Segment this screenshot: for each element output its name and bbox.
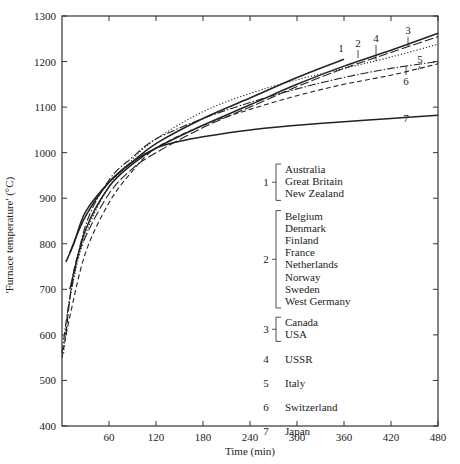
leader-line xyxy=(418,66,420,70)
x-tick-label: 240 xyxy=(242,431,259,443)
curve-label-4: 4 xyxy=(373,32,379,44)
legend-country: Great Britain xyxy=(285,175,343,187)
furnace-temperature-chart: 4005006007008009001000110012001300601201… xyxy=(0,0,460,464)
legend-country: Finland xyxy=(285,234,319,246)
curve-6 xyxy=(62,64,438,358)
x-tick-label: 360 xyxy=(336,431,353,443)
legend-country: Sweden xyxy=(285,283,320,295)
axes: 4005006007008009001000110012001300601201… xyxy=(34,10,447,443)
x-tick-label: 120 xyxy=(148,431,165,443)
y-tick-label: 400 xyxy=(40,420,57,432)
curve-annotations: 1234567 xyxy=(338,24,423,124)
curve-4 xyxy=(66,37,438,335)
legend-country: Denmark xyxy=(285,222,326,234)
y-tick-label: 500 xyxy=(40,374,57,386)
y-tick-label: 1100 xyxy=(34,101,56,113)
x-tick-label: 480 xyxy=(430,431,447,443)
legend-country: France xyxy=(285,246,315,258)
legend-country: Italy xyxy=(285,377,306,389)
legend-country: New Zealand xyxy=(285,187,344,199)
legend: 1AustraliaGreat BritainNew Zealand2Belgi… xyxy=(263,163,351,437)
legend-bracket xyxy=(272,164,281,200)
legend-country: USSR xyxy=(285,353,313,365)
legend-country: Netherlands xyxy=(285,258,338,270)
y-tick-label: 1300 xyxy=(34,10,57,22)
curve-label-1: 1 xyxy=(338,42,344,54)
legend-number: 5 xyxy=(263,377,269,389)
y-tick-label: 800 xyxy=(40,238,57,250)
y-tick-label: 700 xyxy=(40,283,57,295)
legend-country: West Germany xyxy=(285,295,351,307)
curve-label-5: 5 xyxy=(417,53,423,65)
curve-2 xyxy=(64,44,438,353)
y-tick-label: 600 xyxy=(40,329,57,341)
legend-bracket xyxy=(272,211,281,308)
curve-7 xyxy=(70,115,438,253)
legend-country: USA xyxy=(285,328,307,340)
legend-number: 7 xyxy=(263,425,269,437)
curves xyxy=(62,33,438,357)
legend-number: 3 xyxy=(263,323,269,335)
curve-label-6: 6 xyxy=(403,75,409,87)
legend-number: 1 xyxy=(263,176,269,188)
x-tick-label: 180 xyxy=(195,431,212,443)
legend-number: 6 xyxy=(263,401,269,413)
y-tick-label: 900 xyxy=(40,192,57,204)
curve-3 xyxy=(70,33,438,289)
legend-country: Japan xyxy=(285,425,311,437)
y-axis-title: 'Furnace temperature' (°C) xyxy=(3,176,16,293)
legend-country: Canada xyxy=(285,316,318,328)
x-tick-label: 420 xyxy=(383,431,400,443)
legend-country: Norway xyxy=(285,271,321,283)
legend-country: Australia xyxy=(285,163,325,175)
legend-number: 2 xyxy=(263,253,269,265)
legend-country: Belgium xyxy=(285,210,323,222)
y-tick-label: 1200 xyxy=(34,56,57,68)
y-tick-label: 1000 xyxy=(34,147,57,159)
legend-country: Switzerland xyxy=(285,401,338,413)
legend-bracket xyxy=(272,317,281,341)
legend-number: 4 xyxy=(263,353,269,365)
curve-label-2: 2 xyxy=(355,37,361,49)
curve-label-3: 3 xyxy=(405,24,411,36)
x-tick-label: 60 xyxy=(104,431,116,443)
x-axis-title: Time (min) xyxy=(225,445,275,458)
curve-label-7: 7 xyxy=(403,112,409,124)
